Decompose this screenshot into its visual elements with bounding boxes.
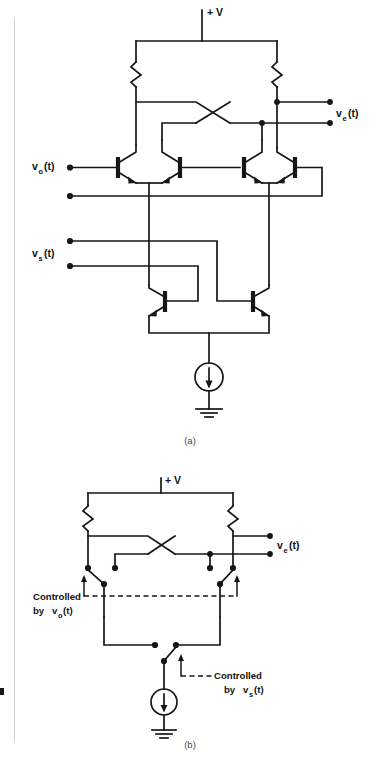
label-vo-arg-a: (t) <box>44 160 55 172</box>
right-pole-to-bottom-b <box>176 617 220 645</box>
control-label-vo-line2-b: by <box>33 605 45 616</box>
q2-collector-a <box>162 140 180 163</box>
q6-emitter-arrow-a <box>261 310 269 317</box>
label-ve-sub-b: e <box>284 546 288 555</box>
control-label-vs-line1-b: Controlled <box>214 670 262 681</box>
label-ve-sub-a: e <box>343 114 347 123</box>
label-ve-var-b: v <box>277 539 283 551</box>
label-vo-a: v o (t) <box>32 160 55 176</box>
output-terminal-bottom-a[interactable] <box>327 120 333 126</box>
label-vs-var-a: v <box>32 247 38 259</box>
q5-emitter-arrow-a <box>149 310 157 317</box>
lower-pair-tail-rail-a <box>149 316 269 333</box>
supply-label-b: + V <box>165 474 181 486</box>
control-label-vs-line2-b: by <box>224 684 236 695</box>
control-label-vs-arg-b: (t) <box>254 684 264 695</box>
diagram-a: + V v o (t) v s (t) v e (t) (a) <box>32 6 359 446</box>
input-terminal-vs-top-a[interactable] <box>67 238 73 244</box>
control-label-vo-b: Controlled by v o (t) <box>33 591 81 620</box>
circuit-figure-svg: + V v o (t) v s (t) v e (t) (a) <box>0 0 380 761</box>
label-ve-var-a: v <box>336 107 342 119</box>
inner-base-feed-left-a <box>162 123 196 140</box>
margin-mark <box>0 688 4 695</box>
label-vs-arg-a: (t) <box>44 247 55 259</box>
control-label-vo-arg-b: (t) <box>63 605 73 616</box>
q3-emitter-arrow-a <box>254 177 262 184</box>
label-ve-a: v e (t) <box>336 107 359 123</box>
left-inner-throw-stub-b <box>115 554 148 568</box>
bottom-switch-contact-left-b <box>152 642 158 648</box>
q4-collector-a <box>277 148 295 163</box>
q1-collector-a <box>118 145 136 163</box>
label-ve-arg-a: (t) <box>348 107 359 119</box>
label-vo-var-a: v <box>32 160 38 172</box>
current-source-arrow-head-a <box>205 381 212 389</box>
caption-b: (b) <box>184 739 196 750</box>
left-resistor-b <box>83 506 93 531</box>
left-control-arrow-head-b <box>81 575 87 582</box>
control-label-vo-line1-b: Controlled <box>33 591 81 602</box>
supply-label-a: + V <box>207 6 223 18</box>
input-terminal-vo-top-a[interactable] <box>67 164 73 170</box>
left-inner-contact-b <box>112 565 118 571</box>
left-switch-blade-b[interactable] <box>88 570 104 584</box>
q1-emitter-arrow-a <box>128 177 136 184</box>
current-source-arrow-head-b <box>161 705 168 713</box>
label-ve-arg-b: (t) <box>289 539 300 551</box>
label-vs-sub-a: s <box>39 254 43 263</box>
input-terminal-vo-bottom-a[interactable] <box>67 193 73 199</box>
control-label-vs-b: Controlled by v s (t) <box>214 670 264 699</box>
caption-a: (a) <box>184 435 196 446</box>
cross-wire-left-to-right-a <box>136 102 230 123</box>
output-node-top-a <box>274 99 280 105</box>
output-terminal-top-b[interactable] <box>267 533 273 539</box>
left-resistor-a <box>131 62 141 87</box>
output-terminal-bottom-b[interactable] <box>267 551 273 557</box>
diagram-b: + V v e (t) Controlled by v o (t) Contro… <box>33 474 300 750</box>
left-pole-to-bottom-b <box>104 617 155 645</box>
label-ve-b: v e (t) <box>277 539 300 555</box>
output-terminal-top-a[interactable] <box>327 99 333 105</box>
control-label-vs-sub-b: s <box>249 690 253 699</box>
right-resistor-a <box>272 62 282 87</box>
label-vs-a: v s (t) <box>32 247 55 263</box>
q6-collector-a <box>253 285 269 297</box>
q3-collector-a <box>244 140 262 163</box>
right-resistor-b <box>228 506 238 531</box>
input-terminal-vs-bottom-a[interactable] <box>67 263 73 269</box>
figure-root: + V v o (t) v s (t) v e (t) (a) <box>0 0 380 761</box>
q4-emitter-arrow-a <box>277 177 285 184</box>
bottom-control-arrow-head-b <box>178 654 184 661</box>
q2-emitter-arrow-a <box>162 177 170 184</box>
q5-base-lead-a <box>70 266 198 301</box>
q6-base-lead-a <box>70 241 253 301</box>
right-inner-contact-b <box>207 565 213 571</box>
right-control-arrow-head-b <box>234 575 240 582</box>
q5-collector-a <box>149 285 165 297</box>
label-vo-sub-a: o <box>39 167 44 176</box>
